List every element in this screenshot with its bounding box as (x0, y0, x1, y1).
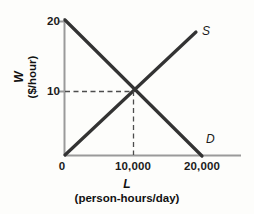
supply-demand-chart: 20 10 0 10,000 20,000 S D W ($/hour) L (… (0, 0, 254, 214)
supply-curve-label: S (202, 24, 210, 38)
y-axis-title-variable: W (13, 71, 26, 82)
x-axis-title-variable: L (0, 178, 254, 192)
x-axis-tick-label: 20,000 (174, 160, 230, 172)
x-axis-title: L (person-hours/day) (0, 178, 254, 205)
x-axis-tick-label: 0 (54, 160, 70, 172)
supply-curve (65, 32, 196, 155)
y-axis-title-units: ($/hour) (26, 56, 38, 99)
x-axis-tick-label: 10,000 (105, 160, 161, 172)
y-axis-title: W ($/hour) (9, 29, 43, 125)
y-axis-tick-label: 20 (36, 15, 60, 27)
x-axis-title-units: (person-hours/day) (0, 192, 254, 205)
demand-curve-label: D (206, 132, 215, 146)
